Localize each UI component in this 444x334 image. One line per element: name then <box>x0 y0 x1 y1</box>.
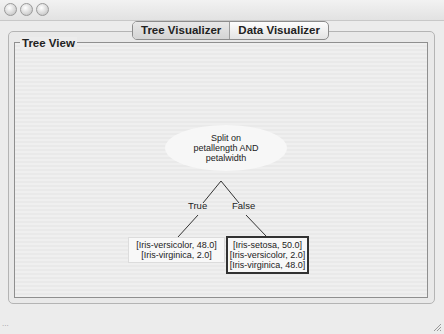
tree-view-panel[interactable]: Tree View Split on petallength AND petal… <box>14 42 428 298</box>
tab-bar: Tree Visualizer Data Visualizer <box>132 21 329 40</box>
leaf-class-count: [Iris-virginica, 2.0] <box>132 250 221 260</box>
leaf-class-count: [Iris-versicolor, 48.0] <box>132 240 221 250</box>
leaf-class-count: [Iris-setosa, 50.0] <box>229 240 306 250</box>
minimize-window-button[interactable] <box>20 3 33 16</box>
leaf-class-count: [Iris-versicolor, 2.0] <box>229 250 306 260</box>
resize-grip-icon[interactable] <box>432 322 442 332</box>
leaf-class-count: [Iris-virginica, 48.0] <box>229 260 306 270</box>
root-node-line: petallength AND <box>193 143 258 153</box>
window-titlebar <box>0 0 444 21</box>
root-node-line: Split on <box>193 133 258 143</box>
tab-data-visualizer[interactable]: Data Visualizer <box>230 22 328 39</box>
status-text: ... <box>2 319 9 328</box>
zoom-window-button[interactable] <box>36 3 49 16</box>
edge-label-true: True <box>188 200 207 211</box>
root-node-line: petalwidth <box>193 153 258 163</box>
root-node[interactable]: Split on petallength AND petalwidth <box>165 125 287 171</box>
close-window-button[interactable] <box>4 3 17 16</box>
leaf-node-true[interactable]: [Iris-versicolor, 48.0] [Iris-virginica,… <box>128 237 225 263</box>
tab-tree-visualizer[interactable]: Tree Visualizer <box>133 22 230 39</box>
edge-label-false: False <box>232 200 255 211</box>
leaf-node-false-selected[interactable]: [Iris-setosa, 50.0] [Iris-versicolor, 2.… <box>226 236 309 274</box>
